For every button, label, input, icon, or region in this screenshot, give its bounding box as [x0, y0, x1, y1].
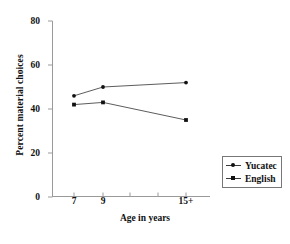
legend-label-yucatec: Yucatec	[242, 161, 277, 171]
data-point-english-7	[72, 103, 76, 107]
chart-legend: Yucatec English	[222, 156, 282, 188]
data-point-yucatec-7	[72, 94, 76, 98]
data-point-english-9	[101, 101, 105, 105]
axis-lines	[53, 21, 211, 197]
y-axis-ticks	[48, 21, 53, 197]
dot-marker-icon	[225, 160, 242, 171]
square-marker-icon	[225, 173, 242, 184]
legend-item-yucatec: Yucatec	[225, 159, 277, 172]
legend-label-english: English	[242, 174, 276, 184]
series-english-path	[74, 102, 186, 120]
data-point-yucatec-15plus	[184, 81, 188, 85]
chart-figure: Percent material choices Age in years 80…	[0, 0, 290, 244]
data-point-english-15plus	[184, 118, 188, 122]
legend-item-english: English	[225, 172, 277, 185]
series-english	[72, 101, 188, 122]
plot-area	[0, 0, 290, 244]
series-yucatec	[72, 81, 188, 98]
data-point-yucatec-9	[101, 85, 105, 89]
series-yucatec-path	[74, 83, 186, 96]
